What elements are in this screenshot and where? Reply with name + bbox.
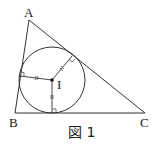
- triangle-abc: [15, 20, 145, 113]
- incircle-diagram: A B C I 図 1: [0, 0, 159, 146]
- incenter-dot: [50, 78, 54, 82]
- label-a: A: [24, 5, 34, 20]
- right-angle-marks: [21, 59, 76, 113]
- label-i: I: [57, 77, 61, 92]
- figure-caption: 図 1: [68, 124, 95, 140]
- label-b: B: [9, 115, 18, 130]
- label-c: C: [140, 115, 149, 130]
- diagram-svg: A B C I 図 1: [0, 0, 159, 146]
